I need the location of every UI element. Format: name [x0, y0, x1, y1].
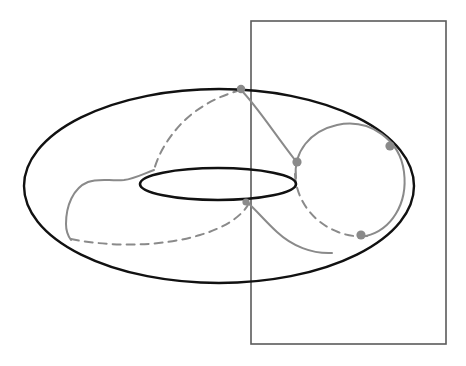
figure-canvas: [0, 0, 466, 366]
intersection-point-outer-right: [385, 141, 394, 150]
cutting-plane-rectangle: [251, 21, 446, 344]
meridian-circle-right-hidden: [295, 174, 368, 236]
geodesic-chord-top: [241, 90, 295, 160]
geodesic-front-lower: [247, 202, 332, 253]
intersection-point-lower-right: [356, 230, 365, 239]
torus-inner-hole: [140, 168, 296, 200]
torus-diagram: [0, 0, 466, 366]
geodesic-back-lower: [71, 203, 249, 245]
geodesic-back-upper: [154, 90, 241, 170]
intersection-point-top: [237, 85, 245, 93]
meridian-circle-right: [296, 124, 405, 236]
intersection-point-inner-lower: [242, 198, 249, 205]
intersection-point-upper-right: [292, 157, 301, 166]
